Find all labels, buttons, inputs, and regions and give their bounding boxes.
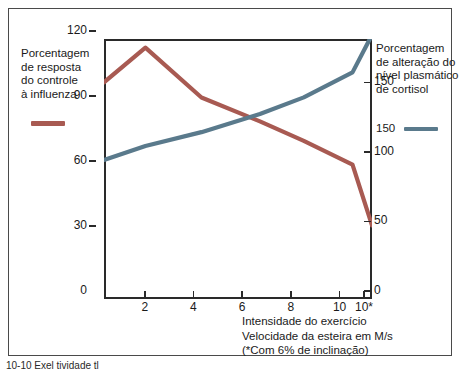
tick-mark	[89, 225, 96, 227]
tick-mark	[241, 291, 243, 298]
series-line-influenza	[104, 48, 372, 226]
legend-right-line-0: Porcentagem	[376, 42, 458, 56]
tick-label: 2	[128, 300, 162, 314]
tick-label: 120	[53, 23, 87, 37]
legend-right-color-swatch	[404, 127, 438, 132]
tick-label: 0	[374, 283, 414, 297]
figure-caption: 10-10 Exel tividade tl	[6, 360, 462, 370]
tick-mark	[363, 291, 365, 298]
x-axis-caption-line-0: Intensidade do exercício	[242, 314, 393, 329]
tick-mark	[89, 30, 96, 32]
tick-mark	[339, 291, 341, 298]
tick-mark	[290, 291, 292, 298]
legend-right-value-row: 150	[376, 122, 438, 134]
tick-mark	[364, 151, 371, 153]
legend-left-line-0: Porcentagem	[21, 47, 89, 61]
chart-lines	[104, 39, 372, 299]
tick-label: 30	[53, 218, 87, 232]
tick-mark	[364, 221, 371, 223]
tick-label: 60	[53, 153, 87, 167]
series-line-cortisol	[104, 39, 372, 160]
tick-mark	[193, 291, 195, 298]
tick-label: 50	[374, 213, 414, 227]
x-axis-caption: Intensidade do exercício Velocidade da e…	[242, 314, 393, 358]
legend-left-color-swatch	[31, 121, 65, 126]
tick-mark	[144, 291, 146, 298]
tick-mark	[364, 290, 371, 292]
legend-right-line-1: de alteração do	[376, 56, 458, 70]
tick-label: 8	[274, 300, 308, 314]
tick-label: 90	[53, 88, 87, 102]
figure-frame: Porcentagem de resposta do controle à in…	[8, 8, 452, 356]
legend-left-line-1: de resposta	[21, 61, 89, 75]
tick-mark	[89, 160, 96, 162]
tick-mark	[89, 95, 96, 97]
tick-label: 0	[53, 283, 87, 297]
plot-area	[104, 39, 372, 299]
tick-label: 10*	[347, 300, 381, 314]
x-axis-caption-line-1: Velocidade da esteira em M/s	[242, 329, 393, 344]
x-axis-caption-line-2: (*Com 6% de inclinação)	[242, 343, 393, 358]
tick-label: 6	[225, 300, 259, 314]
legend-right-value-label: 150	[376, 122, 395, 134]
tick-label: 4	[176, 300, 210, 314]
tick-label: 100	[374, 144, 414, 158]
tick-mark	[364, 82, 371, 84]
tick-label: 150	[374, 74, 414, 88]
legend-left-line-2: do controle	[21, 74, 89, 88]
